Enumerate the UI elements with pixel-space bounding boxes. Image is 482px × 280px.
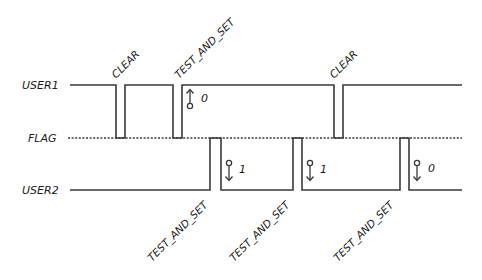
event-label-test-and-set-1: TEST_AND_SET — [145, 198, 212, 265]
arrow-down-icon — [307, 160, 314, 180]
event-label-clear-1: CLEAR — [109, 48, 142, 81]
user1-label: USER1 — [22, 79, 59, 92]
event-label-test-and-set-3: TEST_AND_SET — [331, 198, 398, 265]
timing-diagram: USER1 FLAG USER2 CLEAR TEST_AND_SET CLEA… — [0, 0, 482, 280]
user2-waveform — [70, 138, 462, 190]
arrow-down-icon — [226, 160, 233, 180]
event-label-clear-2: CLEAR — [327, 48, 360, 81]
annotation-value-3: 1 — [320, 163, 327, 176]
arrow-up-icon — [187, 90, 194, 109]
user1-waveform — [70, 85, 462, 138]
annotation-value-2: 1 — [239, 163, 246, 176]
event-label-test-and-set-top: TEST_AND_SET — [172, 15, 239, 82]
arrow-down-icon — [414, 160, 421, 180]
flag-label: FLAG — [28, 132, 57, 145]
user2-label: USER2 — [22, 184, 59, 197]
annotation-value-4: 0 — [428, 162, 435, 175]
annotation-value-1: 0 — [201, 92, 208, 105]
event-label-test-and-set-2: TEST_AND_SET — [227, 198, 294, 265]
